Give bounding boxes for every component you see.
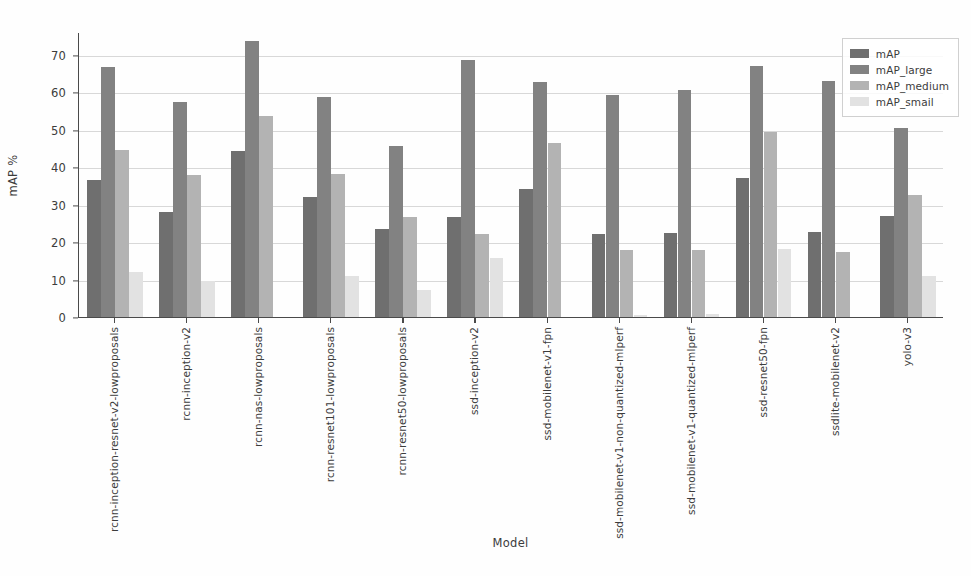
bar-mAP_large — [173, 102, 187, 317]
legend-label: mAP_medium — [876, 80, 949, 92]
bar-mAP_large — [245, 41, 259, 317]
x-tick-label-wrap: rcnn-resnet50-lowproposals — [402, 179, 414, 327]
x-tick-label: rcnn-resnet101-lowproposals — [324, 327, 336, 482]
bar-mAP — [736, 178, 750, 318]
y-tick-label: 0 — [58, 311, 66, 325]
x-tick-label: rcnn-inception-resnet-v2-lowproposals — [108, 327, 120, 532]
chart-figure: 010203040506070 mAP % rcnn-inception-res… — [0, 0, 971, 576]
legend-item: mAP_smail — [850, 94, 949, 109]
bar-mAP_large — [822, 81, 836, 317]
bar-mAP — [87, 180, 101, 317]
bar-mAP_large — [894, 128, 908, 317]
x-axis-title: Model — [78, 536, 943, 550]
bar-mAP_large — [678, 90, 692, 317]
legend-swatch-mAP_small — [850, 97, 869, 106]
bar-mAP — [519, 189, 533, 317]
legend-item: mAP_medium — [850, 78, 949, 93]
bar-mAP_small — [634, 315, 648, 317]
plot-area — [78, 33, 943, 318]
bar-mAP_small — [129, 272, 143, 317]
y-tick-label: 60 — [51, 86, 66, 100]
x-tick-label-wrap: ssd-resnet50-fpn — [763, 237, 775, 327]
legend-label: mAP_smail — [876, 96, 934, 108]
y-tick-label: 50 — [51, 124, 66, 138]
x-tick-label: ssd-mobilenet-v1-quantized-mlperf — [685, 327, 697, 515]
bar-mAP_small — [417, 290, 431, 317]
bar-mAP — [664, 233, 678, 317]
x-tick-label-wrap: ssdlite-mobilenet-v2 — [835, 218, 847, 327]
x-tick-label: ssd-mobilenet-v1-non-quantized-mlperf — [613, 327, 625, 539]
bar-mAP_small — [490, 258, 504, 317]
x-tick-label-wrap: ssd-mobilenet-v1-non-quantized-mlperf — [619, 115, 631, 327]
legend-swatch-mAP_medium — [850, 81, 869, 90]
x-tick-label-wrap: yolo-v3 — [907, 288, 919, 327]
x-tick-label-wrap: rcnn-inception-resnet-v2-lowproposals — [114, 122, 126, 327]
bar-mAP — [375, 229, 389, 317]
bar-mAP — [880, 216, 894, 317]
legend-item: mAP — [850, 46, 949, 61]
x-tick-label: rcnn-nas-lowproposals — [252, 327, 264, 447]
bar-mAP_large — [317, 97, 331, 318]
x-tick-label: rcnn-resnet50-lowproposals — [396, 327, 408, 475]
x-tick-label: ssd-resnet50-fpn — [757, 327, 769, 417]
bar-mAP — [303, 197, 317, 317]
legend-item: mAP_large — [850, 62, 949, 77]
x-tick-label-wrap: rcnn-inception-v2 — [186, 233, 198, 327]
bar-mAP_small — [922, 276, 936, 317]
chart-legend: mAPmAP_largemAP_mediummAP_smail — [842, 38, 959, 117]
bar-mAP — [231, 151, 245, 317]
bar-mAP — [808, 232, 822, 318]
x-tick-label-wrap: ssd-mobilenet-v1-fpn — [547, 214, 559, 327]
bar-mAP_small — [778, 249, 792, 317]
x-tick-label: ssdlite-mobilenet-v2 — [829, 327, 841, 436]
bar-mAP_small — [706, 314, 720, 317]
x-tick-label-wrap: rcnn-resnet101-lowproposals — [330, 172, 342, 327]
legend-label: mAP — [876, 48, 900, 60]
bar-mAP_large — [606, 95, 620, 317]
bar-mAP — [447, 217, 461, 317]
bar-mAP_small — [345, 276, 359, 317]
y-tick-label: 70 — [51, 49, 66, 63]
x-tick-label: rcnn-inception-v2 — [180, 327, 192, 421]
x-tick-label-wrap: ssd-inception-v2 — [474, 239, 486, 327]
bar-mAP_large — [389, 146, 403, 317]
y-axis-title: mAP % — [6, 33, 24, 318]
y-tick-label: 10 — [51, 274, 66, 288]
y-tick-label: 30 — [51, 199, 66, 213]
x-tick-label: ssd-inception-v2 — [468, 327, 480, 415]
legend-swatch-mAP_large — [850, 65, 869, 74]
bar-mAP_large — [461, 60, 475, 317]
bar-mAP_small — [201, 281, 215, 317]
x-tick-label-wrap: rcnn-nas-lowproposals — [258, 207, 270, 327]
bar-mAP_large — [101, 67, 115, 318]
legend-swatch-mAP — [850, 49, 869, 58]
y-tick-label: 20 — [51, 236, 66, 250]
y-tick-label: 40 — [51, 161, 66, 175]
x-tick-label: yolo-v3 — [901, 327, 913, 366]
bar-mAP — [159, 212, 173, 317]
bar-mAP — [592, 234, 606, 317]
x-tick-label-wrap: ssd-mobilenet-v1-quantized-mlperf — [691, 139, 703, 327]
legend-label: mAP_large — [876, 64, 933, 76]
x-tick-label: ssd-mobilenet-v1-fpn — [541, 327, 553, 440]
bar-mAP_large — [750, 66, 764, 317]
bar-mAP_large — [533, 82, 547, 317]
